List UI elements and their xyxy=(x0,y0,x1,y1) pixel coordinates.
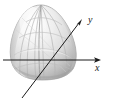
x-axis-label: x xyxy=(95,63,99,73)
surface-plot-svg xyxy=(0,0,113,106)
egg-outline xyxy=(10,5,76,80)
figure-container: y x xyxy=(0,0,113,106)
y-axis-label: y xyxy=(88,15,92,25)
